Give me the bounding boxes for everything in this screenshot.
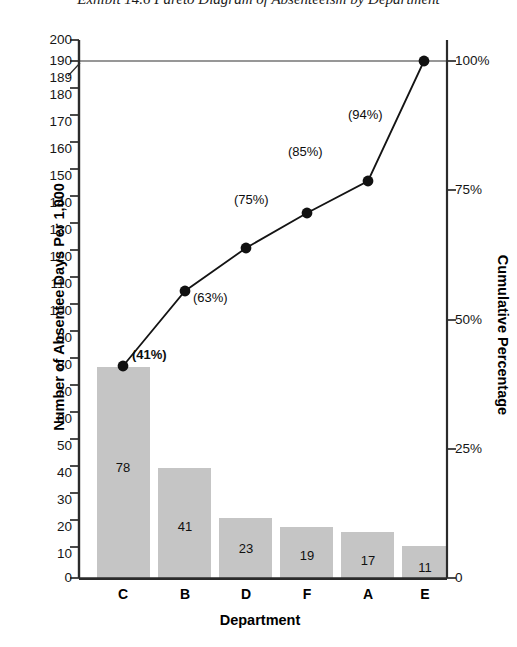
left-tick-0: 0: [64, 571, 72, 585]
bar-value-E: 11: [395, 560, 455, 575]
bar-value-B: 41: [155, 519, 215, 534]
point-label-A: (94%): [348, 107, 383, 122]
category-label-A: A: [338, 586, 398, 602]
point-label-F: (85%): [288, 144, 323, 159]
point-A: [363, 176, 374, 187]
y2-axis-title: Cumulative Percentage: [495, 170, 511, 500]
bar-value-C: 78: [93, 460, 153, 475]
left-tick-189: 189: [49, 71, 72, 85]
bar-value-F: 19: [277, 548, 337, 563]
x-axis-title: Department: [79, 612, 441, 628]
left-tick-10: 10: [57, 547, 72, 561]
point-label-B: (63%): [193, 290, 228, 305]
left-tick-190: 190: [49, 54, 72, 68]
point-D: [241, 243, 252, 254]
y-axis-title: Number of Absentee Days Per 1,000: [51, 142, 67, 472]
pareto-chart: Exhibit 14.6 Pareto Diagram of Absenteei…: [0, 0, 517, 647]
point-F: [302, 208, 313, 219]
category-label-F: F: [277, 586, 337, 602]
point-B: [180, 286, 191, 297]
left-tick-20: 20: [57, 520, 72, 534]
right-tick-25pct: 25%: [455, 442, 482, 456]
right-tick-75pct: 75%: [455, 183, 482, 197]
bar-value-A: 17: [338, 553, 398, 568]
cumulative-points: [118, 56, 430, 372]
category-label-E: E: [395, 586, 455, 602]
left-tick-170: 170: [49, 115, 72, 129]
category-label-C: C: [93, 586, 153, 602]
point-label-D: (75%): [234, 192, 269, 207]
right-tick-0: 0: [455, 571, 463, 585]
right-axis: [447, 40, 456, 578]
category-label-B: B: [155, 586, 215, 602]
right-tick-100pct: 100%: [455, 54, 490, 68]
right-tick-50pct: 50%: [455, 313, 482, 327]
left-tick-180: 180: [49, 88, 72, 102]
category-label-D: D: [216, 586, 276, 602]
left-tick-30: 30: [57, 493, 72, 507]
point-C: [118, 361, 129, 372]
point-label-C: (41%): [132, 347, 167, 362]
point-E: [419, 56, 430, 67]
bar-value-D: 23: [216, 541, 276, 556]
left-tick-200: 200: [49, 33, 72, 47]
